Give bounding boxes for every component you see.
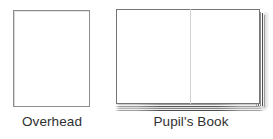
book-page-edge [264,15,265,107]
book-left-page [116,9,191,104]
book-page-edge [115,110,264,111]
book-page-edge [262,13,263,106]
pupils-book-figure [112,7,270,110]
book-page-edge [115,104,260,105]
figure-legend: Overhead Pupil's Book [0,0,273,139]
overhead-caption: Overhead [0,114,104,130]
book-page-edge [115,108,263,109]
book-right-page [190,9,260,104]
transparency-sheet-icon [13,10,90,107]
overhead-figure [13,10,90,107]
book-spine [190,9,191,104]
book-page-edge [260,12,261,106]
pupils-book-caption: Pupil's Book [112,114,270,130]
